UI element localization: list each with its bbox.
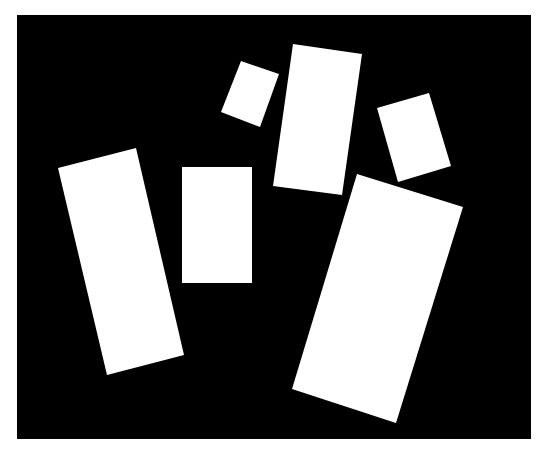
rect-center-upright: [182, 167, 252, 283]
shapes-canvas: [0, 0, 540, 451]
